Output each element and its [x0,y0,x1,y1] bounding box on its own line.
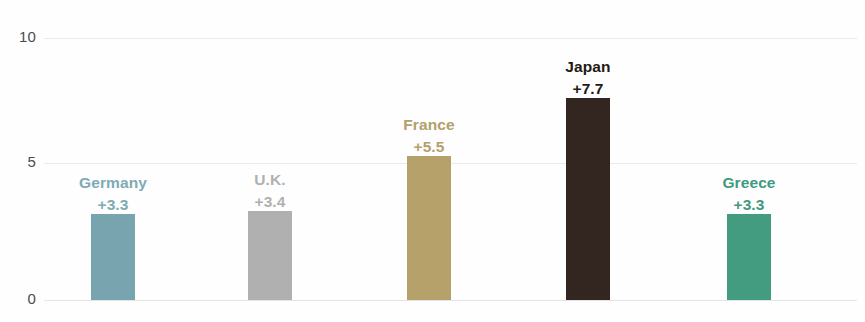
bar-rect-france[interactable] [407,156,451,300]
bar-value-uk: +3.4 [205,192,335,211]
bar-rect-uk[interactable] [248,211,292,300]
bar-rect-germany[interactable] [91,214,135,300]
bar-group-japan: Japan +7.7 [523,57,653,300]
bar-group-germany: Germany +3.3 [48,173,178,300]
bar-group-france: France +5.5 [364,115,494,300]
bar-label-germany: Germany [48,173,178,192]
bar-value-germany: +3.3 [48,195,178,214]
bar-rect-greece[interactable] [727,214,771,300]
bar-group-greece: Greece +3.3 [684,173,814,300]
bar-value-greece: +3.3 [684,195,814,214]
bar-label-uk: U.K. [205,170,335,189]
bar-value-japan: +7.7 [523,79,653,98]
bar-rect-japan[interactable] [566,98,610,300]
bar-value-france: +5.5 [364,137,494,156]
bar-group-uk: U.K. +3.4 [205,170,335,300]
bar-label-japan: Japan [523,57,653,76]
bar-label-greece: Greece [684,173,814,192]
plot-area: Germany +3.3 U.K. +3.4 France +5.5 Japan… [0,0,865,322]
bar-label-france: France [364,115,494,134]
bar-chart: 10 5 0 Germany +3.3 U.K. +3.4 France +5.… [0,0,865,322]
